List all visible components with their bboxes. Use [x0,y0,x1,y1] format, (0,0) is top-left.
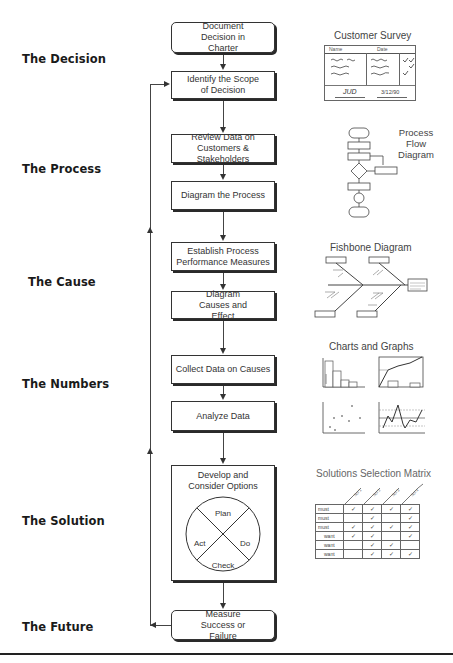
handwriting-scribbles-icon [325,46,417,86]
process-flow-title: Process Flow Diagram [396,127,436,160]
step-establish-measures: Establish Process Performance Measures [171,242,275,271]
process-flow-title-line1: Process [396,127,436,138]
matrix-row-label: must [316,523,344,532]
matrix-row: want✓✓✓ [316,550,420,559]
step-review-data: Review Data on Customers & Stakeholders [171,134,275,163]
matrix-row: must✓✓✓✓ [316,505,420,514]
step-measure-success: Measure Success or Failure [171,610,275,640]
check-icon: ✓ [370,542,375,548]
arrow-down-icon [220,348,226,354]
matrix-cell: ✓ [363,550,382,559]
step-develop-options: Develop and Consider Options Plan Do Act… [171,465,275,581]
matrix-cell: ✓ [363,541,382,550]
check-icon: ✓ [351,506,356,512]
pdca-plan-label: Plan [172,508,274,519]
matrix-cell: ✓ [344,523,363,532]
matrix-cell: ✓ [344,532,363,541]
survey-date-value: 3/12/90 [381,89,399,95]
matrix-row-label: must [316,514,344,523]
pdca-do-label: Do [240,538,250,549]
arrow-up-icon [147,227,153,233]
connector-8-9 [223,431,224,459]
step-document-decision: Document Decision in Charter [171,22,275,53]
process-flow-title-line2: Flow [396,138,436,149]
check-icon: ✓ [370,524,375,530]
matrix-row: want✓✓ [316,541,420,550]
pareto-chart-thumbnail-icon [378,356,424,388]
survey-signature: JUD [343,88,357,95]
connector-4-5 [223,210,224,236]
matrix-cell: ✓ [382,523,401,532]
arrow-down-icon [220,64,226,70]
check-icon: ✓ [408,533,413,539]
check-icon: ✓ [351,524,356,530]
phase-label-numbers: The Numbers [22,377,109,391]
check-icon: ✓ [389,551,394,557]
check-icon: ✓ [370,551,375,557]
connector-9-10 [223,581,224,604]
matrix-row: must✓✓ [316,514,420,523]
phase-label-cause: The Cause [28,275,96,289]
check-icon: ✓ [408,515,413,521]
charts-title: Charts and Graphs [329,341,414,352]
arrow-down-icon [220,235,226,241]
matrix-cell: ✓ [401,505,420,514]
matrix-row-label: want [316,532,344,541]
matrix-row: must✓✓✓✓ [316,523,420,532]
bottom-rule [0,653,453,655]
check-icon: ✓ [370,515,375,521]
connector-6-7 [223,319,224,349]
matrix-row-label: want [316,541,344,550]
matrix-cell: ✓ [382,505,401,514]
connector-5-6 [223,271,224,285]
check-icon: ✓ [408,524,413,530]
connector-2-3 [223,99,224,128]
matrix-cell: ✓ [382,550,401,559]
pdca-act-label: Act [194,538,206,549]
step-analyze-data: Analyze Data [171,401,275,431]
check-icon: ✓ [408,551,413,557]
step-collect-data: Collect Data on Causes [171,355,275,384]
check-icon: ✓ [389,506,394,512]
fishbone-illustration [313,257,428,319]
arrow-down-icon [220,458,226,464]
step-diagram-process: Diagram the Process [171,181,275,210]
matrix-cell: ✓ [401,532,420,541]
arrow-up-icon [147,448,153,454]
process-flow-title-line3: Diagram [396,149,436,160]
matrix-cell: ✓ [363,514,382,523]
check-icon: ✓ [351,533,356,539]
check-icon: ✓ [389,542,394,548]
control-chart-thumbnail-icon [378,402,426,434]
step-identify-scope: Identify the Scope of Decision [171,71,275,99]
bar-chart-thumbnail-icon [322,358,366,388]
pdca-check-label: Check [172,560,274,571]
arrow-down-icon [220,394,226,400]
matrix-cell: ✓ [363,505,382,514]
scatter-plot-thumbnail-icon [322,402,366,434]
matrix-cell [382,514,401,523]
arrow-right-icon [164,81,170,87]
phase-label-solution: The Solution [22,514,105,528]
develop-options-label: Develop and Consider Options [172,470,274,492]
check-icon: ✓ [370,506,375,512]
feedback-line-vertical [150,84,151,626]
step-diagram-causes: Diagram Causes and Effect [171,291,275,319]
solutions-matrix: Sol 1 Sol 2 Sol 3 Sol 4 must✓✓✓✓must✓✓mu… [315,484,425,569]
matrix-cell [382,532,401,541]
matrix-cell: ✓ [344,505,363,514]
matrix-title: Solutions Selection Matrix [316,468,431,479]
check-icon: ✓ [408,506,413,512]
check-icon: ✓ [370,533,375,539]
matrix-cell: ✓ [401,514,420,523]
survey-title: Customer Survey [334,30,411,41]
matrix-cell: ✓ [401,550,420,559]
feedback-line-top [150,84,165,85]
matrix-row-label: want [316,550,344,559]
matrix-row-label: must [316,505,344,514]
matrix-column-header-diagonals [315,484,425,506]
matrix-row: want✓✓✓ [316,532,420,541]
check-icon: ✓ [389,524,394,530]
matrix-cell: ✓ [363,523,382,532]
matrix-table: must✓✓✓✓must✓✓must✓✓✓✓want✓✓✓want✓✓want✓… [315,504,420,559]
